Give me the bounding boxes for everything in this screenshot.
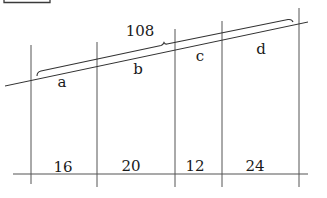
top-left-box bbox=[4, 0, 50, 3]
segment-label-d: d bbox=[256, 42, 266, 57]
segment-label-c: c bbox=[196, 49, 204, 64]
segment-label-b: b bbox=[133, 62, 143, 77]
total-label: 108 bbox=[126, 24, 155, 39]
segment-label-a: a bbox=[58, 75, 67, 90]
bottom-length-12: 12 bbox=[185, 159, 204, 174]
bottom-length-20: 20 bbox=[121, 159, 140, 174]
diagram-canvas: 108 a b c d 16 20 12 24 bbox=[0, 0, 327, 198]
bottom-length-24: 24 bbox=[245, 159, 264, 174]
diagram-lines bbox=[0, 0, 327, 198]
bottom-length-16: 16 bbox=[53, 160, 72, 175]
total-brace bbox=[37, 19, 293, 76]
